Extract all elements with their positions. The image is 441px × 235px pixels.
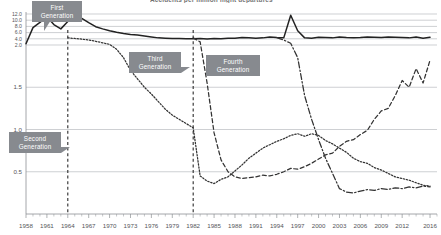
x-axis-tick-label: 1988 (228, 222, 242, 229)
y-axis-tick-label: 1.5 (13, 83, 22, 90)
x-axis-tick-label: 2003 (333, 222, 347, 229)
annotation-fourth-generation-tail (249, 70, 258, 76)
annotation-line-1: Second (11, 135, 59, 143)
x-axis-tick-label: 2012 (395, 222, 409, 229)
x-axis-tick-label: 2009 (374, 222, 388, 229)
x-axis-tick-label: 1979 (165, 222, 179, 229)
x-axis-tick-label: 1982 (186, 222, 200, 229)
annotation-first-generation: First Generation (32, 1, 82, 22)
annotation-second-generation-tail (61, 147, 70, 153)
series-line-fourth-generation (277, 38, 430, 193)
x-axis-tick-label: 1973 (124, 222, 138, 229)
y-axis-tick-label-compressed: 12.0 (12, 11, 22, 17)
chart-plot-area: 0.51.01.52.04.06.08.010.012.019581961196… (0, 0, 441, 235)
x-axis-tick-label: 1997 (291, 222, 305, 229)
annotation-third-generation-tail (181, 67, 190, 73)
annotation-line-2: Generation (131, 63, 179, 71)
x-axis-tick-label: 1991 (249, 222, 263, 229)
annotation-line-1: First (34, 4, 80, 12)
annotation-line-1: Third (131, 55, 179, 63)
x-axis-tick-label: 1976 (145, 222, 159, 229)
y-axis-tick-label-compressed: 6.0 (15, 29, 22, 35)
x-axis-tick-label: 2006 (353, 222, 367, 229)
y-axis-tick-label-compressed: 8.0 (15, 23, 22, 29)
y-axis-tick-label-compressed: 10.0 (12, 17, 22, 23)
x-axis-tick-label: 1970 (103, 222, 117, 229)
x-axis-tick-label: 1985 (207, 222, 221, 229)
x-axis-tick-label: 1964 (61, 222, 75, 229)
annotation-second-generation: Second Generation (9, 132, 61, 153)
x-axis-tick-label: 1958 (19, 222, 33, 229)
x-axis-tick-label: 2016 (423, 222, 437, 229)
x-axis-tick-label: 1994 (270, 222, 284, 229)
x-axis-tick-label: 1967 (82, 222, 96, 229)
x-axis-tick-label: 1961 (40, 222, 54, 229)
annotation-first-generation-tail (44, 20, 51, 31)
y-axis-tick-label-compressed: 2.0 (15, 42, 22, 48)
annotation-line-2: Generation (11, 143, 59, 151)
chart-container: Accidents per million flight departures … (0, 0, 441, 235)
annotation-third-generation: Third Generation (129, 52, 181, 73)
y-axis-tick-label: 0.5 (13, 168, 22, 175)
annotation-line-2: Generation (34, 12, 80, 20)
y-axis-tick-label-compressed: 4.0 (15, 36, 22, 42)
x-axis-tick-label: 2000 (312, 222, 326, 229)
annotation-line-1: Fourth (208, 58, 258, 66)
